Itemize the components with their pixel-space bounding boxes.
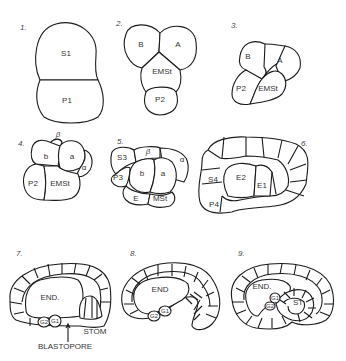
label-p4: P4 [209, 200, 219, 209]
label-a: A [175, 40, 181, 49]
panel-6-number: 6. [301, 139, 308, 148]
label-p2-3: P2 [236, 84, 246, 93]
label-s1: S1 [61, 49, 71, 58]
label-alpha4: α [82, 163, 87, 172]
label-end-7: END. [40, 293, 59, 302]
label-st: ST [293, 298, 303, 307]
label-a3: A [277, 56, 283, 65]
label-end-9: END. [252, 282, 271, 291]
label-b4: b [44, 152, 49, 161]
label-g1-8: G1 [161, 308, 170, 314]
label-s4: S4 [208, 175, 218, 184]
panel-5: 5. S3 β α P3 b a E MSt [111, 137, 188, 207]
label-stom: STOM [84, 327, 107, 336]
panel-9: 9. END. G1 G2 ST [231, 249, 334, 329]
label-p1: P1 [62, 96, 72, 105]
label-p2-4: P2 [28, 179, 38, 188]
label-beta4: β [55, 130, 61, 139]
panel-4: 4. β b a α P2 EMSt [18, 130, 92, 200]
label-mst5: MSt [153, 194, 168, 203]
panel-2: 2. B A EMSt P2 [115, 19, 196, 115]
panel-8: 8. END G2 G1 [122, 249, 220, 330]
label-g2-9: G2 [266, 303, 275, 309]
label-g1-7: G1 [51, 318, 60, 324]
label-end-8: END [152, 285, 169, 294]
label-e1: E1 [257, 181, 267, 190]
label-beta5: β [145, 147, 151, 156]
panel-2-number: 2. [115, 19, 123, 28]
panel-3: 3. B A P2 EMSt [231, 21, 300, 105]
label-p2: P2 [155, 95, 165, 104]
label-g2-8: G2 [150, 313, 159, 319]
label-b3: B [245, 52, 250, 61]
panel-9-number: 9. [238, 249, 245, 258]
panel-6: 6. S4 E2 E1 P4 [199, 137, 308, 213]
label-g1-9: G1 [271, 295, 280, 301]
label-emst3: EMSt [258, 84, 278, 93]
label-blastopore: BLASTOPORE [38, 342, 92, 351]
panel-3-number: 3. [231, 21, 238, 30]
panel-7-number: 7. [16, 249, 23, 258]
label-g2-7: G2 [40, 319, 49, 325]
label-a4: a [70, 152, 75, 161]
label-a5: a [161, 169, 166, 178]
blastopore-arrow [66, 324, 70, 342]
label-s3: S3 [117, 153, 127, 162]
label-p3: P3 [113, 173, 123, 182]
label-b: B [138, 40, 143, 49]
label-alpha5: α [180, 155, 185, 164]
label-emst4: EMSt [50, 179, 70, 188]
panel-7: 7. END. G2 G1 STOM BLASTOPORE [10, 249, 111, 351]
label-e2: E2 [236, 173, 246, 182]
label-emst: EMSt [152, 67, 172, 76]
panel-1-number: 1. [20, 23, 27, 32]
label-e5: E [133, 194, 138, 203]
embryo-development-diagram: 1. S1 P1 2. B A EMSt P2 3. B A P2 EMSt 4… [0, 0, 346, 361]
panel-8-number: 8. [130, 249, 137, 258]
label-b5: b [140, 169, 145, 178]
panel-5-number: 5. [117, 137, 124, 146]
panel-1: 1. S1 P1 [20, 23, 103, 123]
panel-4-number: 4. [18, 139, 25, 148]
